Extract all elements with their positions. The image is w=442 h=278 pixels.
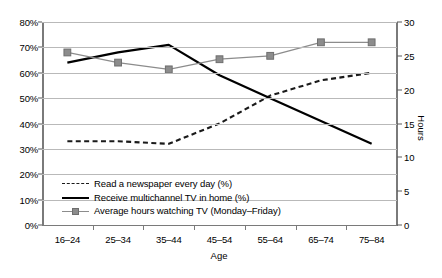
legend-swatch-icon	[62, 191, 89, 205]
legend-item[interactable]: Average hours watching TV (Monday–Friday…	[62, 204, 281, 218]
x-axis-tick-label: 16–24	[55, 234, 80, 245]
legend-label: Average hours watching TV (Monday–Friday…	[94, 204, 281, 218]
y-axis-right-tick-label: 10	[404, 152, 415, 163]
gridline	[42, 22, 397, 23]
y-axis-left-tick-mark	[38, 47, 42, 48]
y-axis-right-tick-label: 0	[404, 220, 409, 231]
y-axis-left-tick-label: 40%	[20, 118, 38, 129]
series-line	[67, 73, 371, 144]
y-axis-right-tick-label: 5	[404, 186, 409, 197]
series-marker	[64, 49, 71, 56]
legend-label: Receive multichannel TV in home (%)	[94, 191, 249, 205]
y-axis-right-tick-label: 30	[404, 17, 415, 28]
y-axis-left-tick-label: 20%	[20, 169, 38, 180]
gridline	[42, 98, 397, 99]
y-axis-left-tick-label: 50%	[20, 93, 38, 104]
x-axis-tick-label: 55–64	[257, 234, 282, 245]
y-axis-left-tick-label: 80%	[20, 17, 38, 28]
legend-swatch-icon	[62, 177, 89, 191]
x-axis-tick-label: 35–44	[156, 234, 181, 245]
y-axis-left-tick-label: 0%	[25, 220, 38, 231]
series-marker	[216, 56, 223, 63]
y-axis-right-tick-label: 15	[404, 118, 415, 129]
y-axis-left-tick-mark	[38, 22, 42, 23]
gridline	[42, 124, 397, 125]
gridline	[42, 73, 397, 74]
y-axis-right-tick-mark	[397, 22, 402, 23]
gridline	[42, 174, 397, 175]
legend-item[interactable]: Receive multichannel TV in home (%)	[62, 191, 281, 205]
y-axis-left-tick-mark	[38, 225, 42, 226]
x-axis-tick-mark	[346, 225, 347, 230]
x-axis-tick-mark	[245, 225, 246, 230]
x-axis-tick-label: 65–74	[308, 234, 333, 245]
y-axis-left-tick-label: 70%	[20, 42, 38, 53]
x-axis-tick-mark	[143, 225, 144, 230]
line-chart: 0%10%20%30%40%50%60%70%80% 051015202530 …	[0, 0, 442, 278]
y-axis-left-tick-mark	[38, 148, 42, 149]
y-axis-left-tick-mark	[38, 174, 42, 175]
x-axis-tick-label: 25–34	[105, 234, 130, 245]
x-axis-tick-mark	[194, 225, 195, 230]
y-axis-right-tick-mark	[397, 225, 402, 226]
y-axis-right-tick-label: 20	[404, 84, 415, 95]
x-axis-tick-label: 45–54	[207, 234, 232, 245]
y-axis-left-tick-mark	[38, 98, 42, 99]
gridline	[42, 149, 397, 150]
series-marker	[115, 59, 122, 66]
series-marker	[267, 52, 274, 59]
series-marker	[368, 39, 375, 46]
legend-item[interactable]: Read a newspaper every day (%)	[62, 177, 281, 191]
y-axis-left-tick-label: 10%	[20, 194, 38, 205]
y-axis-left-tick-label: 30%	[20, 143, 38, 154]
y-axis-left-tick-mark	[38, 72, 42, 73]
x-axis-tick-label: 75–84	[359, 234, 384, 245]
y-axis-right-tick-mark	[397, 157, 402, 158]
legend-label: Read a newspaper every day (%)	[94, 177, 232, 191]
legend: Read a newspaper every day (%)Receive mu…	[62, 177, 281, 218]
y-axis-left-tick-mark	[38, 199, 42, 200]
y-axis-right-tick-label: 25	[404, 50, 415, 61]
x-axis-tick-mark	[296, 225, 297, 230]
y-axis-right-tick-mark	[397, 191, 402, 192]
y-axis-right-tick-mark	[397, 55, 402, 56]
legend-swatch-icon	[62, 204, 89, 218]
series-marker	[318, 39, 325, 46]
gridline	[42, 47, 397, 48]
y-axis-left-tick-label: 60%	[20, 67, 38, 78]
x-axis-title: Age	[211, 250, 228, 261]
y-axis-right-tick-mark	[397, 123, 402, 124]
series-marker	[165, 66, 172, 73]
y-axis-right-title: Hours	[416, 115, 427, 140]
x-axis-tick-mark	[93, 225, 94, 230]
y-axis-left-tick-mark	[38, 123, 42, 124]
y-axis-right-tick-mark	[397, 89, 402, 90]
x-axis-line	[42, 225, 398, 226]
